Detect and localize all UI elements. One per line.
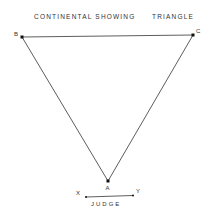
judge-x-marker xyxy=(85,196,87,198)
point-c-marker xyxy=(192,34,195,37)
point-a-label: A xyxy=(106,185,110,191)
point-b-marker xyxy=(21,36,24,39)
point-c-label: C xyxy=(196,28,201,34)
triangle-diagram: CONTINENTAL SHOWING TRIANGLE B C A X Y J… xyxy=(0,0,212,216)
title-right: TRIANGLE xyxy=(152,13,194,20)
judge-y-label: Y xyxy=(136,188,140,194)
point-b-label: B xyxy=(14,31,18,37)
edge-bc xyxy=(22,35,193,37)
title-left: CONTINENTAL SHOWING xyxy=(34,13,136,20)
judge-caption: JUDGE xyxy=(91,201,121,207)
judge-x-label: X xyxy=(76,190,80,196)
point-a-marker xyxy=(107,180,110,183)
judge-y-marker xyxy=(132,195,134,197)
edge-ca xyxy=(108,35,193,181)
judge-line xyxy=(86,196,133,198)
edge-ba xyxy=(22,37,108,181)
